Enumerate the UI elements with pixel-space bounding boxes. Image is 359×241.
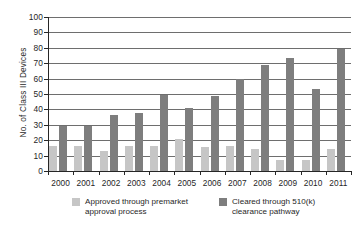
y-tick-label: 20 — [33, 135, 43, 145]
y-tick-label: 10 — [33, 151, 43, 161]
bar-group — [124, 17, 149, 171]
bar — [276, 160, 284, 171]
bar — [74, 146, 82, 171]
bar — [251, 149, 259, 171]
bar — [135, 113, 143, 171]
bar-group — [250, 17, 275, 171]
y-tick-label: 40 — [33, 104, 43, 114]
bar-group — [48, 17, 73, 171]
bar-group — [174, 17, 199, 171]
bar — [226, 146, 234, 171]
bar — [201, 147, 209, 171]
bar — [150, 146, 158, 171]
y-tick-label: 60 — [33, 74, 43, 84]
bar-group — [99, 17, 124, 171]
bar-chart-figure: No. of Class III Devices 010203040506070… — [0, 0, 359, 241]
bar-group — [73, 17, 98, 171]
bar-group — [326, 17, 351, 171]
y-axis-line — [48, 17, 49, 172]
legend-label: Approved through premarket approval proc… — [85, 197, 203, 217]
y-axis-title: No. of Class III Devices — [19, 23, 28, 163]
legend-entry: Cleared through 510(k) clearance pathway — [219, 197, 350, 217]
bar — [100, 151, 108, 171]
bar — [110, 115, 118, 171]
x-tick-mark — [351, 171, 352, 175]
chart-legend: Approved through premarket approval proc… — [72, 197, 352, 217]
bar — [160, 95, 168, 171]
bar — [49, 146, 57, 171]
bar-group — [200, 17, 225, 171]
legend-swatch — [72, 198, 80, 206]
y-tick-label: 50 — [33, 89, 43, 99]
bar — [236, 79, 244, 171]
bar-group — [149, 17, 174, 171]
y-tick-label: 100 — [29, 12, 43, 22]
bar — [312, 89, 320, 171]
y-tick-label: 0 — [38, 166, 43, 176]
y-tick-label: 80 — [33, 43, 43, 53]
y-tick-label: 90 — [33, 27, 43, 37]
x-tick-label: 2011 — [318, 178, 358, 188]
bar-group — [225, 17, 250, 171]
bar — [211, 96, 219, 171]
bar-group — [275, 17, 300, 171]
bar — [327, 149, 335, 171]
y-tick-label: 70 — [33, 58, 43, 68]
y-tick-label: 30 — [33, 120, 43, 130]
bar — [84, 126, 92, 171]
bar — [286, 58, 294, 171]
legend-swatch — [219, 198, 227, 206]
bar — [337, 49, 345, 171]
bar — [302, 160, 310, 171]
bar — [185, 108, 193, 171]
x-axis-line — [48, 171, 351, 172]
bar-group — [301, 17, 326, 171]
bar — [261, 65, 269, 171]
bar — [175, 139, 183, 171]
plot-area: 0102030405060708090100 20002001200220032… — [48, 17, 351, 171]
legend-entry: Approved through premarket approval proc… — [72, 197, 203, 217]
bar — [125, 146, 133, 171]
bar — [59, 126, 67, 171]
legend-label: Cleared through 510(k) clearance pathway — [232, 197, 350, 217]
